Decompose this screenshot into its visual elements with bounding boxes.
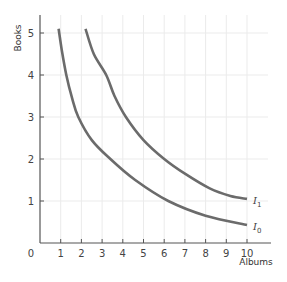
x-tick-label: 8 — [202, 248, 208, 259]
y-tick-label: 4 — [28, 70, 34, 81]
x-tick-label: 7 — [182, 248, 188, 259]
grid-lines — [40, 15, 268, 243]
indifference-curves — [59, 29, 247, 225]
curve-i1 — [86, 29, 248, 199]
x-tick-label: 4 — [120, 248, 126, 259]
y-tick-label: 3 — [28, 112, 34, 123]
x-tick-label: 5 — [140, 248, 146, 259]
x-tick-label: 1 — [58, 248, 64, 259]
origin-label: 0 — [28, 248, 34, 259]
x-tick-label: 3 — [99, 248, 105, 259]
axes — [40, 15, 271, 243]
indifference-curve-chart: 1234567891012345I0I1 Books Albums 0 — [0, 0, 287, 282]
y-axis-label: Books — [13, 24, 23, 51]
curve-label-subscript: 0 — [257, 227, 261, 235]
x-tick-label: 6 — [161, 248, 167, 259]
x-tick-label: 9 — [223, 248, 229, 259]
y-tick-label: 1 — [28, 196, 34, 207]
y-tick-label: 5 — [28, 28, 34, 39]
x-tick-label: 2 — [78, 248, 84, 259]
curve-i0 — [59, 29, 247, 225]
y-tick-label: 2 — [28, 154, 34, 165]
x-axis-label: Albums — [239, 257, 273, 267]
curve-label-subscript: 1 — [257, 201, 261, 209]
